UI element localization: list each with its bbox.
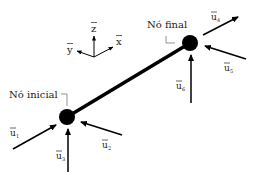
y-axis-label: y (66, 44, 73, 56)
end-node-label: Nó final (147, 19, 187, 43)
svg-text:2: 2 (108, 145, 111, 151)
svg-text:1: 1 (16, 133, 19, 139)
u1-label: u 1 (10, 128, 19, 139)
svg-text:4: 4 (217, 17, 220, 23)
u2-label: u 2 (102, 140, 111, 151)
z-axis-label: z (91, 23, 97, 35)
svg-text:5: 5 (230, 68, 233, 74)
svg-text:Nó final: Nó final (147, 19, 187, 30)
y-axis-arrow (77, 51, 94, 57)
x-axis-arrow (94, 47, 113, 57)
svg-text:y: y (66, 44, 73, 55)
u3-label: u 3 (56, 151, 65, 162)
start-node-leader (61, 94, 67, 106)
svg-text:3: 3 (62, 156, 65, 162)
u4-arrow (203, 17, 238, 35)
end-node-leader (166, 36, 175, 43)
u5-label: u 5 (224, 63, 233, 74)
u5-arrow (205, 46, 246, 59)
end-node (182, 35, 198, 51)
svg-text:Nó inicial: Nó inicial (9, 89, 58, 100)
x-axis-label: x (116, 36, 122, 48)
frame-element-diagram: z y x Nó inicial Nó final u 1 u (0, 0, 253, 178)
svg-text:x: x (116, 36, 122, 47)
u4-label: u 4 (211, 12, 220, 23)
svg-text:6: 6 (182, 86, 185, 92)
u1-arrow (13, 125, 56, 149)
axis-triad: z y x (66, 23, 122, 58)
start-node-label: Nó inicial (9, 89, 67, 106)
u2-arrow (81, 122, 122, 135)
start-node (59, 109, 75, 125)
u6-label: u 6 (176, 81, 185, 92)
svg-text:z: z (91, 23, 96, 34)
